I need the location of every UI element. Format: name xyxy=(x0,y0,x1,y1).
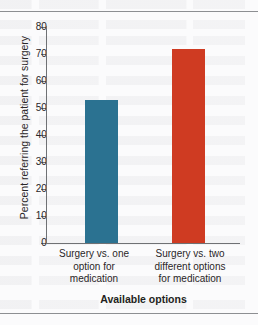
category-label-line: medication xyxy=(48,273,140,286)
bar-surgery-vs-one-option[interactable] xyxy=(85,100,118,243)
figure-panel: Percent referring the patient for surger… xyxy=(0,0,258,325)
y-tick-label: 30 xyxy=(13,157,47,167)
category-label-0: Surgery vs. oneoption formedication xyxy=(48,248,140,286)
y-tick-label: 40 xyxy=(13,130,47,140)
y-tick-label: 80 xyxy=(13,22,47,32)
y-tick-label: 50 xyxy=(13,103,47,113)
category-label-line: different options xyxy=(144,261,236,274)
category-label-line: Surgery vs. two xyxy=(144,248,236,261)
category-label-1: Surgery vs. twodifferent optionsfor medi… xyxy=(144,248,236,286)
category-label-line: option for xyxy=(48,261,140,274)
x-axis-category-labels: Surgery vs. oneoption formedication Surg… xyxy=(47,248,240,290)
bar-surgery-vs-two-options[interactable] xyxy=(172,49,205,243)
x-axis-title: Available options xyxy=(47,293,240,305)
x-axis-line xyxy=(46,243,240,244)
category-label-line: for medication xyxy=(144,273,236,286)
page-rule-top xyxy=(0,11,258,12)
y-tick-label: 0 xyxy=(13,238,47,248)
y-tick-label: 10 xyxy=(13,211,47,221)
y-tick-label: 60 xyxy=(13,76,47,86)
category-label-line: Surgery vs. one xyxy=(48,248,140,261)
y-tick-label: 70 xyxy=(13,49,47,59)
scan-bleed-artifact xyxy=(0,0,258,9)
y-tick-label: 20 xyxy=(13,184,47,194)
page-rule-bottom xyxy=(0,313,258,314)
plot-area xyxy=(47,27,240,243)
